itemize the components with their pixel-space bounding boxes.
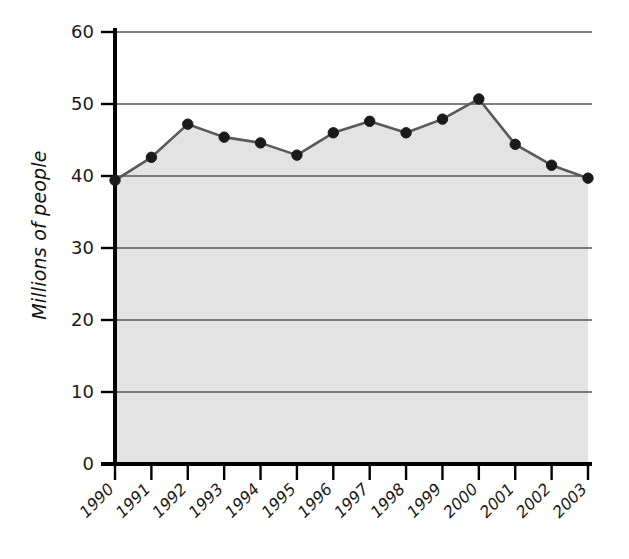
x-tick-label: 2002 [512,479,554,521]
area-chart-plot: 0102030405060 19901991199219931994199519… [0,0,629,559]
y-tick-label: 40 [71,165,94,186]
data-point-marker [110,175,120,185]
data-point-marker [546,160,556,170]
y-tick-label: 60 [71,21,94,42]
data-point-marker [146,152,156,162]
data-point-marker [510,139,520,149]
data-point-marker [401,128,411,138]
data-point-marker [364,116,374,126]
data-point-marker [583,173,593,183]
x-tick-label: 2001 [476,479,518,521]
x-tick-label: 1998 [367,479,409,521]
y-tick-label: 10 [71,381,94,402]
data-point-marker [292,150,302,160]
x-tick-label: 1991 [112,479,154,521]
x-tick-label: 2000 [439,479,481,521]
y-tick-label: 30 [71,237,94,258]
x-tick-label: 1997 [330,479,373,522]
x-tick-label: 1999 [403,479,445,521]
data-point-marker [219,132,229,142]
x-tick-label: 1993 [185,479,227,521]
x-tick-label: 1990 [76,479,118,521]
x-axis-ticks: 1990199119921993199419951996199719981999… [76,466,591,522]
data-point-marker [437,114,447,124]
data-point-marker [183,119,193,129]
y-axis-ticks: 0102030405060 [71,21,115,474]
x-tick-label: 2003 [549,479,591,521]
data-point-marker [328,128,338,138]
x-tick-label: 1996 [294,479,336,521]
area-fill [115,99,588,464]
x-tick-label: 1995 [258,479,300,521]
y-tick-label: 50 [71,93,94,114]
y-tick-label: 20 [71,309,94,330]
x-tick-label: 1994 [221,479,263,521]
chart-figure: Millions of people 0102030405060 1990199… [0,0,629,559]
x-tick-label: 1992 [148,479,190,521]
data-point-marker [255,138,265,148]
y-tick-label: 0 [83,453,94,474]
data-point-marker [474,94,484,104]
